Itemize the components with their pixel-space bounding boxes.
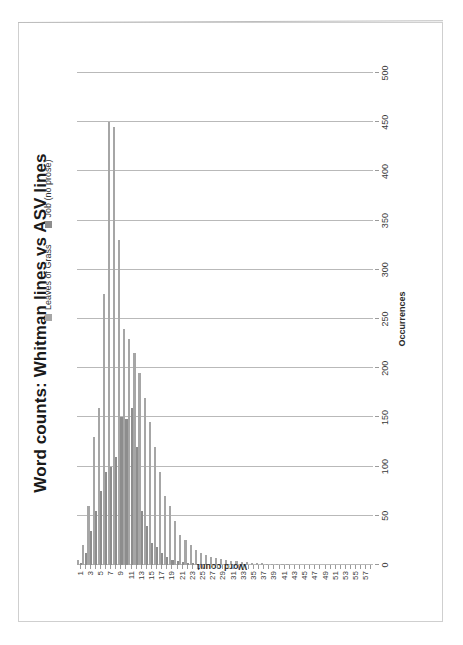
value-axis-tick-label: 500 (380, 65, 390, 80)
bar (130, 407, 132, 564)
category-axis-tick-label: 1 (75, 571, 84, 575)
category-axis-tick (237, 565, 238, 569)
category-axis-tick-label: 29 (217, 571, 226, 580)
category-axis-tick (258, 565, 259, 569)
category-axis-tick (339, 565, 340, 569)
category-axis-tick-label: 49 (320, 571, 329, 580)
category-axis-tick-label: 57 (360, 571, 369, 580)
category-axis-tick-label: 51 (330, 571, 339, 580)
bar-series-container (77, 73, 373, 565)
bar (140, 510, 142, 564)
category-axis-tick-label: 33 (238, 571, 247, 580)
category-axis-tick (344, 565, 345, 569)
bar (110, 466, 112, 564)
value-axis-tick-label: 0 (380, 562, 390, 567)
category-axis-tick-label: 35 (248, 571, 257, 580)
category-axis-tick-label: 7 (105, 571, 114, 575)
bar (89, 530, 91, 564)
category-axis-tick (212, 565, 213, 569)
category-axis-tick (145, 565, 146, 569)
legend-item-leaves-of-grass[interactable]: Leaves of Grass (43, 244, 53, 321)
category-axis-tick (156, 565, 157, 569)
category-axis-tick (171, 565, 172, 569)
category-axis-tick (110, 565, 111, 569)
category-axis-tick (273, 565, 274, 569)
category-axis-tick (135, 565, 136, 569)
category-axis-tick (120, 565, 121, 569)
value-axis-tick (375, 416, 379, 417)
legend-swatch-icon (44, 221, 51, 228)
value-axis-tick-label: 350 (380, 213, 390, 228)
value-axis-tick-label: 150 (380, 409, 390, 424)
category-axis-tick (227, 565, 228, 569)
category-axis-tick-label: 9 (115, 571, 124, 575)
bar (164, 496, 166, 565)
category-axis-tick (89, 565, 90, 569)
category-axis-tick-label: 5 (95, 571, 104, 575)
category-axis-tick (299, 565, 300, 569)
value-axis-tick-label: 400 (380, 163, 390, 178)
bar (145, 525, 147, 564)
category-axis-tick (166, 565, 167, 569)
bar-chart: Word counts: Whitman lines vs ASV lines … (25, 25, 439, 621)
category-axis-tick-label: 13 (136, 571, 145, 580)
bar (120, 417, 122, 565)
chart-title: Word counts: Whitman lines vs ASV lines (31, 25, 51, 621)
bar (174, 520, 176, 564)
category-axis: Word count 13579111315171921232527293133… (77, 565, 373, 591)
category-axis-tick (314, 565, 315, 569)
category-axis-tick (125, 565, 126, 569)
category-axis-tick (217, 565, 218, 569)
category-axis-tick (242, 565, 243, 569)
category-axis-tick (247, 565, 248, 569)
value-axis-tick-label: 250 (380, 311, 390, 326)
bar (151, 543, 153, 565)
bar (158, 471, 160, 564)
category-axis-tick (288, 565, 289, 569)
bar (94, 510, 96, 564)
bar (125, 419, 127, 565)
category-axis-tick (207, 565, 208, 569)
bar (179, 535, 181, 565)
category-axis-tick (79, 565, 80, 569)
bar (84, 553, 86, 565)
category-axis-tick-label: 53 (340, 571, 349, 580)
category-axis-tick (105, 565, 106, 569)
value-axis-tick-label: 100 (380, 459, 390, 474)
category-axis-tick (370, 565, 371, 569)
category-axis-tick (140, 565, 141, 569)
category-axis-tick (263, 565, 264, 569)
chart-legend: Leaves of Grass Job (no prose) (43, 159, 53, 321)
bar (184, 540, 186, 565)
category-axis-tick (319, 565, 320, 569)
value-axis-tick-label: 450 (380, 114, 390, 129)
category-axis-tick (350, 565, 351, 569)
category-axis-tick (309, 565, 310, 569)
value-axis-tick (375, 564, 379, 565)
category-axis-tick (283, 565, 284, 569)
category-axis-tick (84, 565, 85, 569)
category-axis-tick (334, 565, 335, 569)
category-axis-tick-label: 17 (156, 571, 165, 580)
category-axis-tick (202, 565, 203, 569)
value-axis-tick (375, 121, 379, 122)
category-axis-tick (191, 565, 192, 569)
category-axis-tick (151, 565, 152, 569)
category-axis-tick (130, 565, 131, 569)
legend-label: Job (no prose) (43, 159, 53, 217)
category-axis-tick (304, 565, 305, 569)
category-axis-tick (99, 565, 100, 569)
value-axis-title: Occurrences (397, 73, 407, 565)
category-axis-tick-label: 55 (350, 571, 359, 580)
category-axis-tick-label: 43 (289, 571, 298, 580)
value-axis-tick-label: 200 (380, 360, 390, 375)
legend-swatch-icon (44, 314, 51, 321)
value-axis-tick (375, 72, 379, 73)
legend-item-job-no-prose[interactable]: Job (no prose) (43, 159, 53, 228)
bar (99, 491, 101, 565)
category-axis-tick (161, 565, 162, 569)
category-axis-tick-label: 15 (146, 571, 155, 580)
category-axis-tick-label: 27 (207, 571, 216, 580)
bar (156, 547, 158, 565)
legend-label: Leaves of Grass (43, 244, 53, 310)
